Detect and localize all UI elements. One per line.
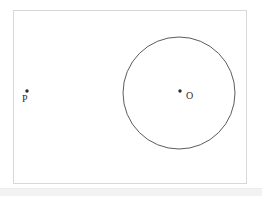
footer-band <box>0 188 262 196</box>
point-o-dot <box>178 89 181 92</box>
point-o-label: O <box>186 91 193 101</box>
point-p-label: P <box>22 94 28 104</box>
figure-frame-border <box>14 11 247 184</box>
figure-root: P O <box>0 0 262 198</box>
geometry-figure-canvas <box>0 0 262 198</box>
